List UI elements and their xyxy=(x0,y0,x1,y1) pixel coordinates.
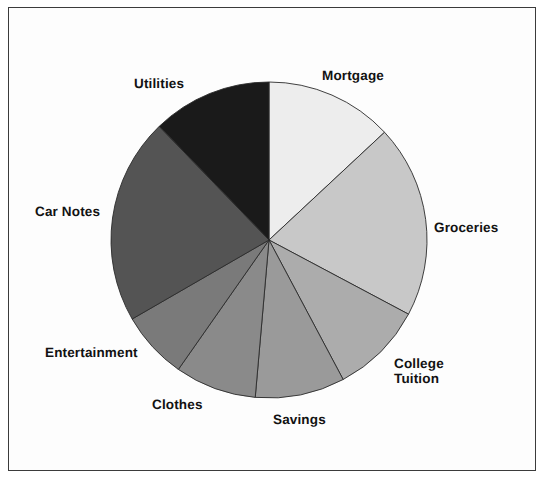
pie-label-college-tuition-line2: Tuition xyxy=(394,371,439,386)
pie-label-mortgage: Mortgage xyxy=(322,68,384,83)
pie-label-car-notes: Car Notes xyxy=(35,204,100,219)
pie-slice-group xyxy=(111,82,427,398)
pie-chart-figure: Mortgage Groceries CollegeTuition Saving… xyxy=(0,0,546,480)
pie-label-clothes: Clothes xyxy=(152,397,203,412)
pie-label-entertainment: Entertainment xyxy=(45,345,138,360)
pie-chart-canvas xyxy=(0,0,546,480)
pie-label-groceries: Groceries xyxy=(434,220,498,235)
pie-label-college-tuition: CollegeTuition xyxy=(394,356,444,386)
pie-label-utilities: Utilities xyxy=(134,76,184,91)
pie-label-college-tuition-line1: College xyxy=(394,356,444,371)
pie-label-savings: Savings xyxy=(273,412,326,427)
